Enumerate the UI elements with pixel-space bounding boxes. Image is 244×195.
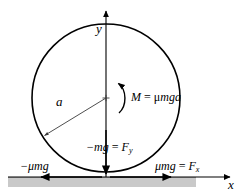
normal-weight-subscript: y xyxy=(129,146,133,155)
normal-weight-symbol: F xyxy=(122,140,129,154)
force-label-friction-left: −μmg xyxy=(20,160,49,172)
friction-left-main: −μmg xyxy=(20,159,49,173)
normal-weight-main: −mg xyxy=(86,140,109,154)
x-axis-label: x xyxy=(228,178,234,191)
ground-surface xyxy=(8,178,196,187)
moment-symbol: M xyxy=(131,90,141,104)
force-label-normal-weight: −mg = Fy xyxy=(86,141,133,155)
radius-label: a xyxy=(56,95,63,108)
y-axis-label: y xyxy=(96,22,102,35)
moment-equals: = xyxy=(141,90,154,104)
friction-right-subscript: x xyxy=(196,165,200,174)
normal-weight-equals: = xyxy=(109,140,122,154)
moment-mga: mga xyxy=(160,90,181,104)
moment-label: M = μmga xyxy=(131,91,181,103)
friction-right-main: μmg xyxy=(155,159,176,173)
friction-right-equals: = xyxy=(176,159,189,173)
force-label-friction-right: μmg = Fx xyxy=(155,160,199,174)
friction-right-symbol: F xyxy=(188,159,195,173)
radius-arrow xyxy=(45,98,107,136)
physics-diagram-figure: y x a M = μmga −mg = Fy −μmg μmg = Fx xyxy=(0,0,244,195)
moment-arc-arrow xyxy=(119,84,125,114)
